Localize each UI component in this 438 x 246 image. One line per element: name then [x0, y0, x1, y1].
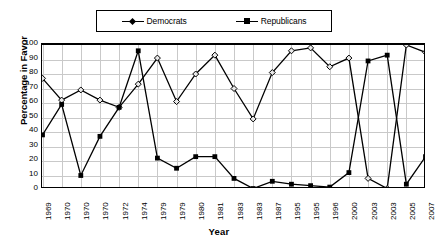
x-tick-label: 1969 — [45, 202, 53, 220]
x-tick-label: 1980 — [198, 202, 206, 220]
diamond-marker-icon — [365, 175, 371, 181]
diamond-marker-icon — [129, 17, 136, 24]
x-axis-title: Year — [0, 226, 438, 237]
x-tick-label: 1970 — [64, 202, 72, 220]
square-marker-icon — [327, 185, 332, 188]
x-tick-label: 1995 — [313, 202, 321, 220]
square-marker-icon — [366, 59, 371, 64]
x-tick-label: 1972 — [122, 202, 130, 220]
y-tick-label: 50 — [14, 112, 38, 120]
diamond-marker-icon — [231, 86, 237, 92]
y-tick-label: 100 — [14, 39, 38, 47]
square-marker-icon — [404, 182, 409, 187]
x-tick-label: 1979 — [179, 202, 187, 220]
x-tick-label: 1981 — [217, 202, 225, 220]
x-tick-label: 2003 — [371, 202, 379, 220]
square-marker-icon — [385, 53, 390, 58]
square-marker-icon — [270, 179, 275, 184]
square-marker-icon — [251, 186, 256, 188]
square-marker-icon — [78, 173, 83, 178]
square-marker-icon — [193, 154, 198, 159]
x-tick-label: 2005 — [409, 202, 417, 220]
x-tick-label: 1970 — [102, 202, 110, 220]
square-marker-icon — [174, 166, 179, 171]
square-marker-icon — [308, 183, 313, 188]
series-lines — [42, 45, 425, 188]
y-tick-label: 0 — [14, 184, 38, 192]
x-tick-label: 1983 — [237, 202, 245, 220]
legend-label-democrats: Democrats — [145, 17, 187, 26]
square-marker-icon — [423, 154, 425, 159]
legend-line-democrats — [122, 17, 144, 26]
line-chart: Democrats Republicans Percentage in Favo… — [0, 0, 438, 246]
y-tick-label: 40 — [14, 126, 38, 134]
square-marker-icon — [117, 105, 122, 110]
y-tick-label: 70 — [14, 83, 38, 91]
plot-area — [41, 43, 425, 188]
square-marker-icon — [212, 154, 217, 159]
x-tick-label: 2000 — [351, 202, 359, 220]
y-tick-label: 90 — [14, 54, 38, 62]
square-marker-icon — [98, 134, 103, 139]
x-tick-label: 1970 — [83, 202, 91, 220]
legend-label-republicans: Republicans — [259, 17, 307, 26]
y-tick-label: 60 — [14, 97, 38, 105]
y-tick-label: 20 — [14, 155, 38, 163]
diamond-marker-icon — [346, 55, 352, 61]
diamond-marker-icon — [97, 97, 103, 103]
y-tick-label: 80 — [14, 68, 38, 76]
square-marker-icon — [59, 102, 64, 107]
series-line-republicans — [43, 51, 426, 188]
x-tick-label: 1995 — [294, 202, 302, 220]
x-tick-label: 1979 — [160, 202, 168, 220]
x-tick-label: 2007 — [428, 202, 436, 220]
legend-item-republicans: Republicans — [236, 17, 307, 26]
legend-line-republicans — [236, 17, 258, 26]
x-tick-label: 1996 — [332, 202, 340, 220]
x-axis-tick-labels: 1969197019701970197219741979197919801981… — [41, 190, 425, 224]
chart-legend: Democrats Republicans — [96, 10, 332, 32]
x-tick-label: 1987 — [275, 202, 283, 220]
legend-item-democrats: Democrats — [122, 17, 187, 26]
diamond-marker-icon — [423, 49, 426, 55]
y-tick-label: 10 — [14, 170, 38, 178]
y-tick-label: 30 — [14, 141, 38, 149]
diamond-marker-icon — [250, 116, 256, 122]
diamond-marker-icon — [78, 87, 84, 93]
x-tick-label: 1983 — [256, 202, 264, 220]
y-axis-tick-labels: 1009080706050403020100 — [14, 38, 38, 188]
x-tick-label: 1974 — [141, 202, 149, 220]
square-marker-icon — [232, 176, 237, 181]
square-marker-icon — [289, 182, 294, 187]
square-marker-icon — [42, 133, 45, 138]
square-marker-icon — [244, 18, 250, 24]
square-marker-icon — [155, 156, 160, 161]
x-tick-label: 2003 — [390, 202, 398, 220]
square-marker-icon — [136, 48, 141, 53]
square-marker-icon — [347, 170, 352, 175]
diamond-marker-icon — [403, 45, 409, 48]
